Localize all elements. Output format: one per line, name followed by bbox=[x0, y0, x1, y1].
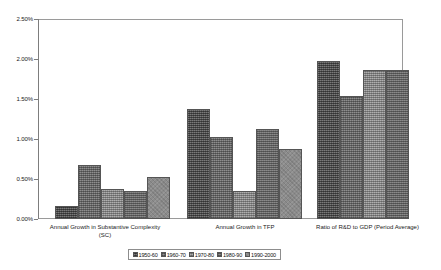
legend-label: 1960-70 bbox=[167, 252, 186, 258]
bar bbox=[363, 70, 386, 219]
y-axis-label: 0.50% bbox=[1, 176, 33, 182]
legend-label: 1980-90 bbox=[223, 252, 242, 258]
y-axis-label: 1.00% bbox=[1, 136, 33, 142]
legend-label: 1990-2000 bbox=[251, 252, 276, 258]
y-axis-tick bbox=[34, 59, 38, 60]
y-axis-tick bbox=[34, 99, 38, 100]
bar bbox=[55, 206, 78, 219]
bar bbox=[256, 129, 279, 219]
legend-item[interactable]: 1970-80 bbox=[189, 252, 214, 258]
legend-swatch-icon bbox=[133, 252, 138, 257]
legend-item[interactable]: 1980-90 bbox=[217, 252, 242, 258]
legend-label: 1950-60 bbox=[139, 252, 158, 258]
bar bbox=[78, 165, 101, 219]
legend-swatch-icon bbox=[189, 252, 194, 257]
bar bbox=[147, 177, 170, 219]
y-axis-tick bbox=[34, 179, 38, 180]
chart-legend: 1950-601960-701970-801980-901990-2000 bbox=[128, 249, 281, 260]
bar bbox=[279, 149, 302, 219]
bars-layer bbox=[39, 19, 402, 219]
bar bbox=[210, 137, 233, 219]
y-axis-tick bbox=[34, 19, 38, 20]
category-label-2: Ratio of R&D to GDP (Period Average) bbox=[295, 224, 440, 232]
bar bbox=[233, 191, 256, 219]
legend-label: 1970-80 bbox=[195, 252, 214, 258]
legend-item[interactable]: 1990-2000 bbox=[245, 252, 276, 258]
y-axis-label: 1.50% bbox=[1, 96, 33, 102]
bar bbox=[317, 61, 340, 219]
y-axis-label: 2.00% bbox=[1, 56, 33, 62]
bar bbox=[101, 189, 124, 219]
legend-item[interactable]: 1950-60 bbox=[133, 252, 158, 258]
legend-swatch-icon bbox=[161, 252, 166, 257]
bar bbox=[187, 109, 210, 219]
bar-chart: 0.00%0.50%1.00%1.50%2.00%2.50% Annual Gr… bbox=[0, 0, 441, 270]
category-label-0: Annual Growth in Substantive Complexity … bbox=[25, 224, 185, 239]
y-axis-label: 0.00% bbox=[1, 216, 33, 222]
y-axis-tick bbox=[34, 219, 38, 220]
y-axis-tick bbox=[34, 139, 38, 140]
bar bbox=[386, 70, 409, 219]
category-label-1: Annual Growth in TFP bbox=[185, 224, 305, 232]
bar bbox=[124, 191, 147, 219]
legend-swatch-icon bbox=[245, 252, 250, 257]
legend-swatch-icon bbox=[217, 252, 222, 257]
bar bbox=[340, 96, 363, 219]
legend-item[interactable]: 1960-70 bbox=[161, 252, 186, 258]
y-axis-label: 2.50% bbox=[1, 16, 33, 22]
